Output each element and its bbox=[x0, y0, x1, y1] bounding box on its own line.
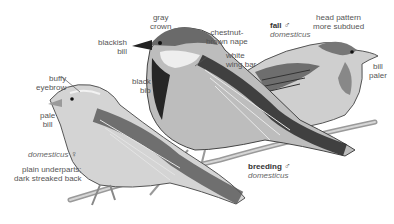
label-white-wing-bar: whitewing bar bbox=[226, 51, 256, 69]
label-black-bib: blackbib bbox=[132, 77, 151, 95]
label-pale-bill: palebill bbox=[40, 111, 55, 129]
caption-fall-male: fall ♂ domesticus bbox=[270, 21, 310, 39]
caption-breeding-male: breeding ♂ domesticus bbox=[248, 162, 291, 180]
label-bill-paler: billpaler bbox=[369, 62, 387, 80]
sparrow-illustration bbox=[0, 0, 394, 224]
label-chestnut-brown-nape: chestnut-brown nape bbox=[206, 28, 248, 46]
label-buffy-eyebrow: buffyeyebrow bbox=[36, 74, 66, 92]
label-gray-crown: graycrown bbox=[150, 13, 171, 31]
caption-female: domesticus ♀ bbox=[28, 150, 77, 159]
label-blackish-bill: blackishbill bbox=[98, 38, 127, 56]
label-plain-underparts: plain underparts;dark streaked back bbox=[14, 165, 82, 183]
label-head-pattern: head patternmore subdued bbox=[313, 13, 364, 31]
